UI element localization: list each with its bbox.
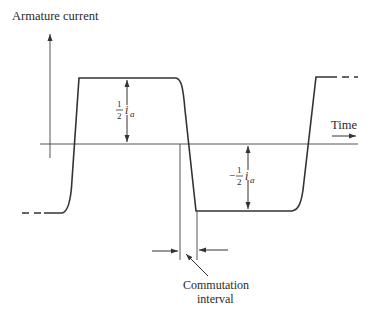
commutation-label-line1: Commutation [183, 278, 249, 292]
svg-text:i: i [125, 103, 128, 117]
y-axis-label: Armature current [12, 9, 99, 23]
svg-text:1: 1 [237, 165, 242, 175]
upper-amplitude-dimension: 1 2 i a [116, 80, 135, 142]
svg-text:2: 2 [237, 177, 242, 187]
svg-text:−: − [229, 169, 235, 181]
svg-text:i: i [245, 169, 248, 183]
commutation-interval-marker [152, 144, 228, 276]
svg-text:a: a [250, 175, 255, 185]
svg-text:a: a [130, 109, 135, 119]
x-axis-label: Time [331, 118, 357, 132]
svg-text:2: 2 [117, 111, 122, 121]
armature-current-diagram: Armature current Time 1 2 i a − 1 2 i [0, 0, 378, 318]
lower-amplitude-dimension: − 1 2 i a [229, 146, 255, 209]
svg-text:1: 1 [117, 99, 122, 109]
current-waveform [22, 77, 358, 213]
commutation-label-line2: interval [197, 292, 234, 306]
